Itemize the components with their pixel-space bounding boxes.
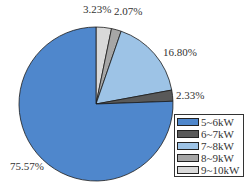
legend-item: 7~8kW: [177, 140, 241, 152]
legend: 5~6kW 6~7kW 7~8kW 8~9kW 9~10kW: [174, 114, 244, 177]
label-8-9kw: 2.07%: [114, 5, 142, 17]
legend-label: 9~10kW: [201, 164, 239, 176]
legend-swatch: [177, 166, 199, 174]
legend-item: 9~10kW: [177, 164, 241, 176]
legend-item: 8~9kW: [177, 152, 241, 164]
legend-item: 5~6kW: [177, 116, 241, 128]
legend-swatch: [177, 118, 199, 126]
label-9-10kw: 3.23%: [83, 3, 111, 15]
label-7-8kw: 16.80%: [163, 46, 197, 58]
label-6-7kw: 2.33%: [176, 89, 204, 101]
label-5-6kw: 75.57%: [10, 160, 44, 172]
legend-swatch: [177, 154, 199, 162]
legend-label: 8~9kW: [201, 152, 234, 164]
legend-label: 7~8kW: [201, 140, 234, 152]
legend-label: 6~7kW: [201, 128, 234, 140]
legend-label: 5~6kW: [201, 116, 234, 128]
legend-swatch: [177, 130, 199, 138]
legend-item: 6~7kW: [177, 128, 241, 140]
legend-swatch: [177, 142, 199, 150]
